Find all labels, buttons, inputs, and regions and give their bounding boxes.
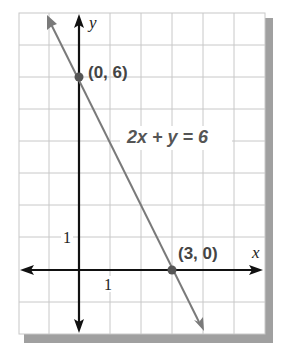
y-axis-label: y bbox=[89, 13, 97, 33]
y-tick-label: 1 bbox=[63, 229, 71, 247]
x-axis-label: x bbox=[252, 243, 260, 263]
coordinate-plane bbox=[0, 0, 284, 348]
point-0-6 bbox=[75, 73, 84, 82]
point-label-0-6: (0, 6) bbox=[88, 63, 128, 83]
point-3-0 bbox=[168, 266, 177, 275]
point-label-3-0: (3, 0) bbox=[178, 244, 218, 264]
equation-label: 2x + y = 6 bbox=[127, 127, 208, 148]
x-tick-label: 1 bbox=[104, 276, 112, 294]
